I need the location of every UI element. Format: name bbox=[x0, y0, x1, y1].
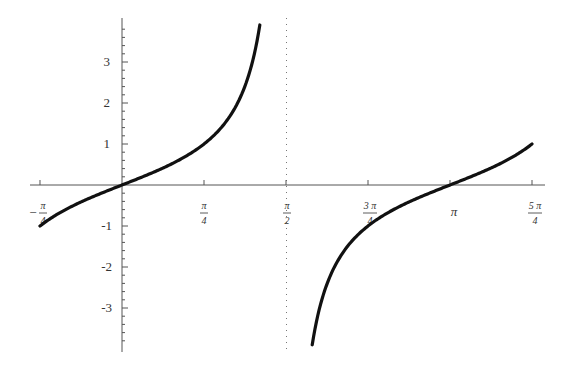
svg-text:3 π: 3 π bbox=[363, 200, 378, 211]
svg-text:π: π bbox=[201, 200, 207, 211]
svg-text:−: − bbox=[29, 205, 36, 220]
svg-text:4: 4 bbox=[202, 215, 207, 226]
tangent-plot: 3 2 1 -1 -2 -3 − π 4 π 4 π 2 3 π 4 π 5 π… bbox=[0, 0, 562, 373]
y-label-1: 1 bbox=[104, 136, 111, 151]
tan-curve-branch-2 bbox=[312, 144, 532, 345]
svg-text:π: π bbox=[284, 200, 290, 211]
y-label-minus-2: -2 bbox=[101, 259, 112, 274]
svg-text:2: 2 bbox=[285, 215, 290, 226]
x-label-5pi-4: 5 π 4 bbox=[528, 200, 542, 226]
tan-curve-branch-1 bbox=[40, 25, 260, 226]
svg-text:5 π: 5 π bbox=[529, 200, 543, 211]
y-label-3: 3 bbox=[104, 54, 111, 69]
x-label-pi: π bbox=[451, 204, 458, 219]
x-label-pi-2: π 2 bbox=[283, 200, 291, 226]
y-label-minus-1: -1 bbox=[101, 218, 112, 233]
svg-text:π: π bbox=[40, 200, 46, 211]
svg-text:4: 4 bbox=[533, 215, 538, 226]
x-label-pi-4: π 4 bbox=[200, 200, 208, 226]
y-label-minus-3: -3 bbox=[101, 300, 112, 315]
y-label-2: 2 bbox=[104, 95, 111, 110]
